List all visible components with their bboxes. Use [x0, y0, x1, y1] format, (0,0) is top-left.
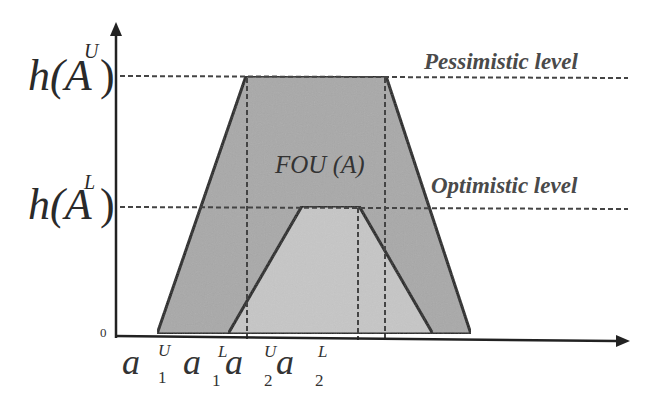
svg-text:a: a	[225, 342, 243, 382]
x-label-a2L: a 2 L	[276, 342, 327, 390]
x-label-a2U: a 2 U	[225, 342, 278, 390]
svg-text:): )	[100, 180, 115, 229]
y-tick-label-hAU: h(A U )	[28, 40, 115, 100]
svg-text:h(A: h(A	[28, 51, 93, 100]
svg-text:U: U	[84, 40, 100, 62]
svg-text:h(A: h(A	[28, 180, 93, 229]
fou-label: FOU (A)	[274, 151, 365, 179]
x-axis-arrow-icon	[616, 335, 630, 347]
x-label-a1L: a 1 L	[183, 342, 227, 390]
svg-text:L: L	[83, 171, 95, 193]
svg-text:a: a	[276, 342, 294, 382]
svg-text:a: a	[183, 342, 201, 382]
optimistic-level-label: Optimistic level	[431, 173, 578, 198]
zero-label: 0	[100, 325, 107, 340]
svg-text:a: a	[122, 342, 140, 382]
y-axis-arrow-icon	[110, 22, 122, 36]
svg-text:1: 1	[158, 368, 167, 387]
x-label-a1U: a 1 U	[122, 341, 172, 387]
fou-diagram: 0 h(A U ) h(A L ) FOU (A) Pessimistic le…	[0, 0, 654, 406]
pessimistic-level-label: Pessimistic level	[423, 49, 579, 74]
svg-text:L: L	[317, 342, 327, 361]
svg-text:2: 2	[264, 371, 273, 390]
svg-text:U: U	[158, 341, 172, 360]
y-tick-label-hAL: h(A L )	[28, 171, 115, 229]
svg-text:1: 1	[212, 371, 221, 390]
svg-text:): )	[100, 51, 115, 100]
svg-text:2: 2	[315, 371, 324, 390]
x-axis	[115, 336, 616, 341]
